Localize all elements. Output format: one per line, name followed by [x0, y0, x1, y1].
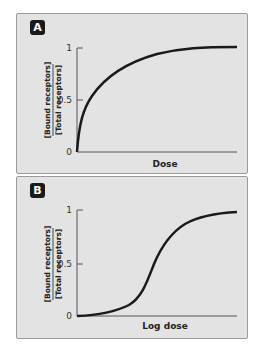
- curve-b: [77, 212, 237, 316]
- chart-a: 1 0.5 0 Dose [Bound receptors] [Total re…: [17, 14, 249, 175]
- y-label-bottom: [Total receptors]: [54, 229, 63, 300]
- curve-a: [77, 47, 237, 152]
- x-label: Log dose: [142, 321, 188, 331]
- y-label-top: [Bound receptors]: [43, 226, 52, 303]
- ytick-0: 0: [66, 311, 72, 321]
- y-label-top: [Bound receptors]: [43, 62, 52, 139]
- x-label: Dose: [152, 159, 177, 169]
- ytick-0: 0: [66, 147, 72, 157]
- y-label-bottom: [Total receptors]: [54, 65, 63, 136]
- chart-b: 1 0.5 0 Log dose [Bound receptors] [Tota…: [17, 177, 249, 340]
- ytick-1: 1: [66, 205, 72, 215]
- panel-a: A 1 0.5 0 Dose [Bound receptors] [Total …: [16, 13, 248, 174]
- ytick-1: 1: [66, 43, 72, 53]
- panel-b: B 1 0.5 0 Log dose [Bound receptors] [To…: [16, 176, 248, 339]
